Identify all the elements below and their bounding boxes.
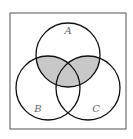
- venn-diagram: A B C: [0, 0, 133, 139]
- shaded-region: [16, 56, 120, 120]
- label-b: B: [33, 103, 41, 114]
- label-a: A: [63, 25, 71, 36]
- label-c: C: [92, 103, 100, 114]
